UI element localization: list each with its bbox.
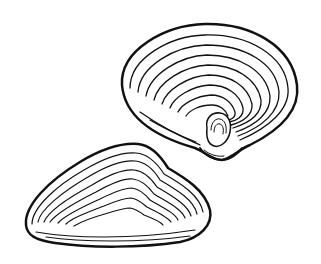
lower-left-clam [26, 144, 211, 247]
illustration-canvas [0, 0, 321, 264]
clam-shells-drawing [0, 0, 321, 264]
upper-right-clam [122, 24, 297, 160]
